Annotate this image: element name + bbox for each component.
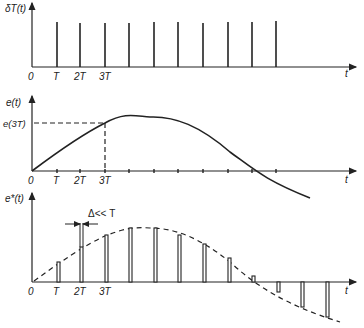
tick-2T: 2T: [73, 286, 87, 297]
y-label-impulse: δT(t): [5, 3, 26, 14]
y-label-signal: e(t): [6, 97, 21, 108]
panel-sampled-signal: [32, 193, 356, 322]
tick-T: T: [53, 175, 60, 186]
tick-3T: 3T: [99, 286, 112, 297]
tick-T: T: [53, 71, 60, 82]
tick-0: 0: [28, 286, 34, 297]
panel-impulse-train: [32, 3, 356, 67]
tick-2T: 2T: [73, 71, 87, 82]
diagram-svg: δT(t) t 0 T 2T 3T e(t) e(3T) t 0 T 2T 3T: [0, 0, 364, 328]
tick-T: T: [53, 286, 60, 297]
tick-2T: 2T: [73, 175, 87, 186]
sampling-diagram: δT(t) t 0 T 2T 3T e(t) e(3T) t 0 T 2T 3T: [0, 0, 364, 328]
x-label-sampled: t: [345, 285, 349, 296]
tick-3T: 3T: [99, 175, 112, 186]
delta-annotation: Δ<< T: [88, 208, 115, 219]
tick-3T: 3T: [99, 71, 112, 82]
tick-0: 0: [28, 175, 34, 186]
y-label-sampled: e*(t): [5, 193, 24, 204]
x-label-signal: t: [345, 174, 349, 185]
e3t-label: e(3T): [3, 118, 26, 129]
x-label-impulse: t: [345, 68, 349, 79]
tick-0: 0: [28, 71, 34, 82]
impulses: [57, 21, 276, 67]
sample-pulses: [57, 228, 329, 317]
